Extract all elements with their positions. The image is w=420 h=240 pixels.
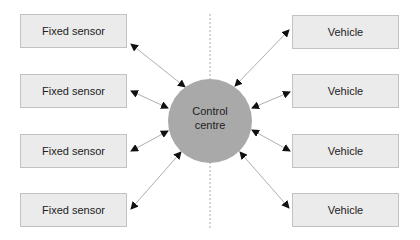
node-label: Fixed sensor (42, 145, 105, 157)
vehicle-node-3: Vehicle (292, 134, 399, 168)
node-label: Fixed sensor (42, 85, 105, 97)
arrow-right-3 (252, 130, 290, 151)
node-label: Fixed sensor (42, 204, 105, 216)
arrow-left-4 (131, 152, 181, 209)
node-label: Fixed sensor (42, 25, 105, 37)
control-centre-label: Control centre (168, 104, 252, 132)
node-label: Vehicle (328, 145, 363, 157)
vehicle-node-2: Vehicle (292, 74, 399, 108)
node-label: Vehicle (328, 204, 363, 216)
vehicle-node-4: Vehicle (292, 193, 399, 227)
arrow-right-4 (240, 152, 289, 208)
control-centre-line2: centre (168, 118, 252, 132)
node-label: Vehicle (328, 85, 363, 97)
fixed-sensor-node-1: Fixed sensor (20, 14, 127, 48)
fixed-sensor-node-3: Fixed sensor (20, 134, 127, 168)
arrow-right-2 (252, 92, 290, 108)
vehicle-node-1: Vehicle (292, 15, 399, 49)
fixed-sensor-node-2: Fixed sensor (20, 74, 127, 108)
arrow-left-1 (131, 44, 185, 87)
arrow-left-2 (131, 91, 168, 108)
fixed-sensor-node-4: Fixed sensor (20, 193, 127, 227)
node-label: Vehicle (328, 26, 363, 38)
arrow-left-3 (131, 131, 168, 151)
arrow-right-1 (235, 30, 289, 86)
control-centre-line1: Control (168, 104, 252, 118)
